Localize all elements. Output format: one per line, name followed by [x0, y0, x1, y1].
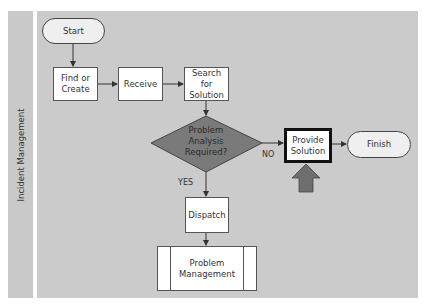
dispatch-step: Dispatch	[185, 197, 229, 233]
finish-terminal: Finish	[347, 131, 411, 158]
yes-label: YES	[178, 178, 193, 187]
problem-management-subprocess: Problem Management	[157, 246, 257, 291]
provide-solution-label: Provide Solution	[288, 135, 328, 157]
dispatch-label: Dispatch	[188, 210, 225, 221]
receive-step: Receive	[118, 67, 163, 101]
find-or-create-step: Find or Create	[53, 67, 98, 101]
subprocess-right-bar	[243, 247, 244, 290]
receive-label: Receive	[124, 79, 157, 90]
highlight-up-arrow-icon	[292, 164, 320, 192]
no-label: NO	[262, 150, 274, 159]
problem-management-label: Problem Management	[177, 258, 237, 280]
search-for-solution-label: Search for Solution	[187, 68, 227, 101]
search-for-solution-step: Search for Solution	[184, 67, 229, 101]
find-or-create-label: Find or Create	[57, 73, 95, 95]
decision-label: Problem Analysis Required?	[170, 125, 242, 158]
subprocess-left-bar	[170, 247, 171, 290]
finish-label: Finish	[367, 139, 391, 150]
provide-solution-step: Provide Solution	[284, 128, 332, 163]
start-label: Start	[63, 26, 84, 37]
start-terminal: Start	[42, 18, 105, 44]
